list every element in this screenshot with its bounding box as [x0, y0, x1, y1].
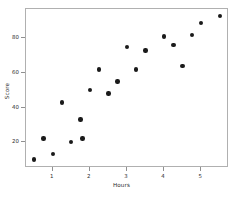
- x-axis-tick: [89, 167, 90, 171]
- scatter-plot-figure: 20406080 12345 Hours Score —— —————— ——: [0, 0, 243, 200]
- y-axis-tick-label: 20: [12, 138, 19, 144]
- y-axis-tick-label: 40: [12, 104, 19, 110]
- x-axis-label: Hours: [0, 182, 243, 188]
- data-point: [190, 33, 194, 37]
- data-point: [78, 117, 82, 121]
- data-point: [125, 45, 129, 49]
- data-point: [162, 34, 166, 38]
- y-axis-label: Score: [4, 69, 10, 113]
- data-point: [180, 64, 184, 68]
- caption-text: —— —————— ——: [0, 192, 243, 195]
- data-point: [218, 14, 222, 18]
- data-point: [69, 140, 73, 144]
- x-axis-tick-label: 2: [87, 173, 90, 179]
- x-axis-tick-label: 5: [198, 173, 201, 179]
- data-point: [97, 67, 101, 71]
- data-point: [88, 88, 92, 92]
- data-point: [51, 152, 55, 156]
- x-axis-tick: [200, 167, 201, 171]
- x-axis-tick: [126, 167, 127, 171]
- data-point: [171, 43, 175, 47]
- data-point: [80, 136, 84, 140]
- data-point: [199, 21, 203, 25]
- x-axis-tick: [52, 167, 53, 171]
- data-point: [41, 136, 45, 140]
- x-axis-tick-label: 3: [124, 173, 127, 179]
- y-axis-tick-label: 60: [12, 69, 19, 75]
- data-point: [60, 100, 64, 104]
- data-point: [143, 48, 147, 52]
- x-axis-tick-label: 1: [50, 173, 53, 179]
- data-point: [106, 91, 110, 95]
- data-point: [115, 79, 119, 83]
- plot-area: [25, 8, 228, 167]
- clipped-caption: —— —————— ——: [0, 192, 243, 200]
- x-axis-tick-label: 4: [161, 173, 164, 179]
- data-point: [32, 157, 36, 161]
- data-point: [134, 67, 138, 71]
- data-points-layer: [26, 9, 227, 166]
- x-axis-tick: [163, 167, 164, 171]
- y-axis-tick-label: 80: [12, 34, 19, 40]
